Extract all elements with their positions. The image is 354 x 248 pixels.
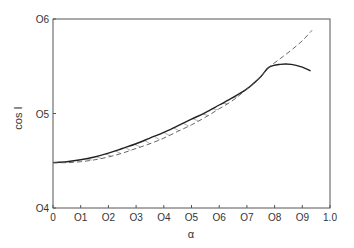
cos-i-vs-alpha-chart: 0O1O2O3O4O5O6O7O8O91.0 O4O5O6 α cos I: [0, 0, 354, 248]
x-tick-label: O6: [213, 212, 227, 223]
hatch-line: [164, 132, 170, 135]
x-tick-label: O3: [129, 212, 143, 223]
plot-frame: [53, 19, 330, 208]
y-tick-label: O5: [36, 109, 50, 120]
x-tick-label: O7: [240, 212, 254, 223]
y-axis-label: cos I: [12, 106, 24, 129]
hatch-line: [173, 128, 179, 131]
y-tick-label: O4: [36, 203, 50, 214]
x-tick-label: O1: [74, 212, 88, 223]
x-tick-label: O5: [185, 212, 199, 223]
x-tick-label: O8: [268, 212, 282, 223]
x-tick-label: 1.0: [323, 212, 337, 223]
x-tick-label: O2: [102, 212, 116, 223]
dashed-curve: [53, 30, 312, 162]
hatch-region: [86, 70, 266, 160]
x-tick-label: 0: [50, 212, 56, 223]
hatch-line: [144, 140, 150, 143]
x-tick-label: O4: [157, 212, 171, 223]
hatch-line: [183, 123, 189, 126]
x-axis-label: α: [188, 228, 195, 240]
x-tick-label: O9: [296, 212, 310, 223]
solid-curve: [53, 64, 311, 163]
hatch-line: [154, 136, 160, 139]
y-tick-label: O6: [36, 14, 50, 25]
